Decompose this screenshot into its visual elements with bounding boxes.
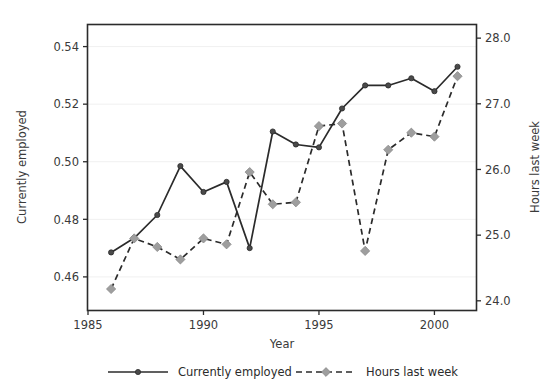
y2-tick-label-3: 27.0 — [485, 97, 511, 111]
y-axis-tick-labels: 0.460.480.500.520.54 — [53, 40, 79, 284]
data-point-s1-1988 — [153, 242, 162, 251]
data-point-s0-1986 — [109, 250, 114, 255]
series-currently-employed — [109, 64, 461, 255]
tick-marks — [83, 38, 481, 315]
data-point-s0-1993 — [270, 129, 275, 134]
data-point-s1-1997 — [361, 246, 370, 255]
data-point-s1-2000 — [430, 132, 439, 141]
x-tick-label-2: 1995 — [304, 318, 333, 332]
x-tick-label-3: 2000 — [420, 318, 449, 332]
data-point-s0-1988 — [155, 212, 160, 217]
data-point-s0-1991 — [224, 179, 229, 184]
y2-tick-label-0: 24.0 — [485, 294, 511, 308]
legend-label-hours-last-week: Hours last week — [366, 365, 458, 379]
data-point-s1-1991 — [222, 240, 231, 249]
legend-label-currently-employed: Currently employed — [178, 365, 292, 379]
x-tick-label-1: 1990 — [189, 318, 218, 332]
y2-tick-label-1: 25.0 — [485, 228, 511, 242]
chart-legend: Currently employed Hours last week — [108, 365, 458, 379]
data-point-s0-1997 — [363, 83, 368, 88]
data-point-s0-1999 — [409, 76, 414, 81]
y-tick-label-3: 0.52 — [53, 97, 79, 111]
data-point-s0-1992 — [247, 246, 252, 251]
series-line-1 — [111, 76, 457, 289]
y2-axis-tick-labels: 24.025.026.027.028.0 — [485, 31, 511, 308]
legend-marker-circle — [135, 369, 140, 374]
series-line-0 — [111, 67, 457, 253]
series-hours-last-week — [107, 72, 463, 294]
line-chart: 0.460.480.500.520.54 24.025.026.027.028.… — [0, 0, 556, 392]
plot-frame — [88, 25, 477, 311]
data-point-s1-1986 — [107, 284, 116, 293]
data-point-s0-1989 — [178, 163, 183, 168]
data-point-s0-1998 — [386, 83, 391, 88]
data-point-s1-2001 — [453, 72, 462, 81]
data-point-s0-1996 — [339, 106, 344, 111]
y2-tick-label-2: 26.0 — [485, 163, 511, 177]
legend-entry-hours-last-week: Hours last week — [296, 365, 458, 379]
y-tick-label-2: 0.50 — [53, 155, 79, 169]
x-axis-tick-labels: 1985199019952000 — [73, 318, 449, 332]
y2-axis-title: Hours last week — [528, 121, 542, 213]
y2-tick-label-4: 28.0 — [485, 31, 511, 45]
data-point-s1-1996 — [337, 119, 346, 128]
y-axis-title: Currently employed — [15, 110, 29, 224]
data-point-s1-1995 — [314, 122, 323, 131]
data-point-s0-1994 — [293, 142, 298, 147]
legend-entry-currently-employed: Currently employed — [108, 365, 292, 379]
y-tick-label-0: 0.46 — [53, 270, 79, 284]
y-tick-label-4: 0.54 — [53, 40, 79, 54]
data-point-s0-2001 — [455, 64, 460, 69]
data-point-s1-1994 — [291, 198, 300, 207]
data-point-s0-2000 — [432, 89, 437, 94]
legend-marker-diamond — [322, 368, 331, 377]
x-axis-title: Year — [269, 337, 295, 351]
x-tick-label-0: 1985 — [73, 318, 102, 332]
data-point-s0-1990 — [201, 189, 206, 194]
y-tick-label-1: 0.48 — [53, 213, 79, 227]
chart-figure: 0.460.480.500.520.54 24.025.026.027.028.… — [0, 0, 556, 392]
data-point-s0-1995 — [316, 145, 321, 150]
